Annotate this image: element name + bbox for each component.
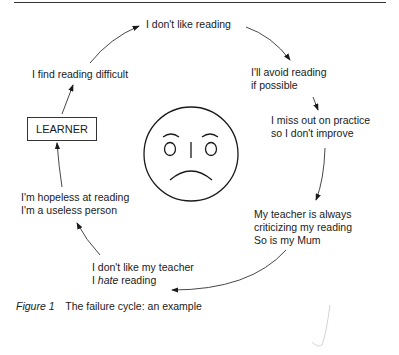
pencil-tick-mark <box>0 0 399 355</box>
